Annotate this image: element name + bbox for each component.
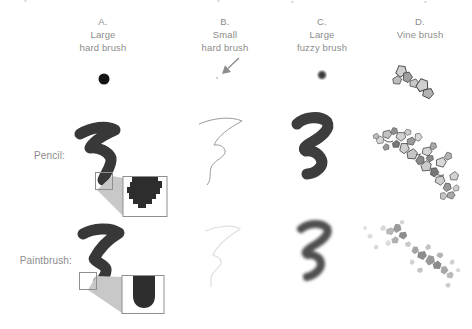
paintbrush-large-fuzzy-stroke bbox=[301, 224, 328, 277]
figure-drawing bbox=[0, 0, 472, 329]
pencil-large-fuzzy-stroke bbox=[297, 118, 328, 174]
large-hard-brush-tip-dot bbox=[99, 74, 110, 85]
zoom-inset-soft-edge bbox=[133, 276, 155, 308]
pencil-small-hard-stroke bbox=[199, 118, 242, 185]
paintbrush-small-hard-stroke bbox=[205, 226, 240, 287]
brush-comparison-figure: A. Large hard brush B. Small hard brush … bbox=[0, 0, 472, 329]
vine-brush-tip-cluster bbox=[392, 64, 436, 100]
pencil-vine-stroke bbox=[372, 127, 459, 201]
paintbrush-vine-stroke bbox=[362, 219, 460, 288]
paintbrush-soft-edge-callout bbox=[80, 273, 165, 314]
large-fuzzy-brush-tip-dot bbox=[317, 70, 328, 81]
small-brush-pointer-arrow bbox=[216, 58, 239, 79]
